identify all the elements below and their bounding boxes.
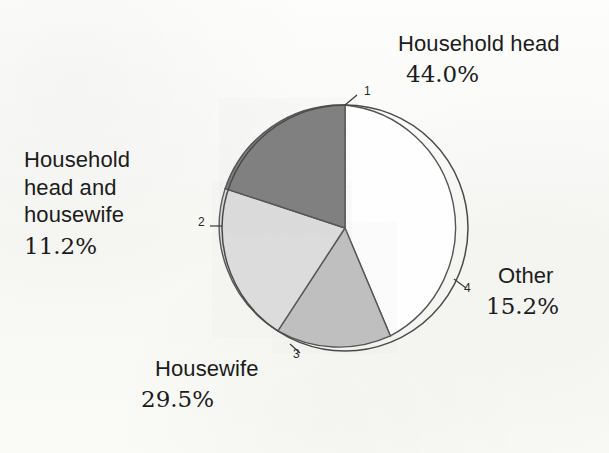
pie-label-head-and-housewife-line2: head and: [24, 174, 130, 202]
pie-label-head-and-housewife-line1: Household: [24, 146, 130, 174]
slice-marker-4: 4: [464, 281, 471, 295]
pie-chart-figure: 1 2 3 4 Household head 44.0% Household h…: [0, 0, 609, 453]
slice-marker-1: 1: [364, 84, 371, 98]
pie-label-housewife-percent: 29.5%: [141, 385, 259, 414]
leader-tick-1: [345, 95, 357, 105]
slice-marker-2: 2: [198, 215, 205, 229]
slice-marker-3: 3: [293, 347, 300, 361]
pie-label-housewife: Housewife 29.5%: [155, 355, 259, 413]
pie-label-household-head-title: Household head: [398, 31, 560, 56]
pie-label-other-title: Other: [498, 263, 554, 288]
pie-label-housewife-title: Housewife: [155, 356, 259, 381]
pie-label-household-head-percent: 44.0%: [406, 60, 560, 89]
pie-label-other: Other 15.2%: [498, 262, 559, 320]
pie-label-head-and-housewife: Household head and housewife 11.2%: [24, 146, 130, 260]
pie-label-household-head: Household head 44.0%: [398, 30, 560, 88]
pie-label-head-and-housewife-line3: housewife: [24, 201, 130, 229]
pie-label-other-percent: 15.2%: [486, 292, 559, 321]
pie-label-head-and-housewife-percent: 11.2%: [24, 232, 130, 261]
